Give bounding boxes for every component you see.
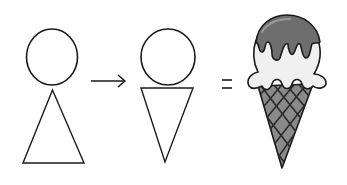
waffle-cone [245,80,330,172]
upright-triangle-shape [23,90,84,163]
figure-2 [141,29,195,162]
arrow-icon [91,75,125,87]
figure-1 [23,29,84,163]
ice-cream-cone-illustration [245,15,330,172]
circle-shape [141,29,195,85]
inverted-triangle-shape [141,88,193,162]
diagram-canvas: Shapes to ice cream cone ice cream cone [0,0,347,185]
circle-shape [27,29,78,85]
equals-icon [222,80,232,88]
